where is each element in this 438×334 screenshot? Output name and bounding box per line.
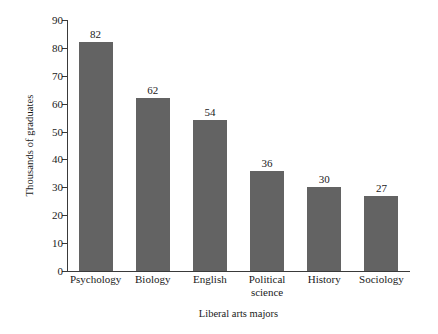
bar-value-label: 27 <box>376 182 387 194</box>
x-category-label: Biology <box>135 273 170 286</box>
y-tick-label: 20 <box>52 210 63 221</box>
bar-value-label: 30 <box>319 173 330 185</box>
bar: 82 <box>79 42 113 271</box>
x-category-label: English <box>193 273 227 286</box>
y-tick-label: 0 <box>58 266 64 277</box>
y-axis-line <box>67 20 68 272</box>
x-category-label: History <box>308 273 341 286</box>
bar-value-label: 62 <box>147 84 158 96</box>
x-axis-line <box>67 271 410 272</box>
y-tick-label: 60 <box>52 98 63 109</box>
plot-area: 0102030405060708090 826254363027 Psychol… <box>67 20 410 271</box>
bar-value-label: 82 <box>90 28 101 40</box>
bar: 62 <box>136 98 170 271</box>
bar: 54 <box>193 120 227 271</box>
x-category-label: Political science <box>249 273 286 298</box>
y-tick-label: 40 <box>52 154 63 165</box>
x-category-label: Psychology <box>70 273 121 286</box>
x-axis-title: Liberal arts majors <box>67 308 410 320</box>
bar-value-label: 36 <box>262 157 273 169</box>
bar-value-label: 54 <box>204 106 215 118</box>
y-tick-label: 10 <box>52 238 63 249</box>
x-category-label: Sociology <box>359 273 404 286</box>
y-tick-label: 30 <box>52 182 63 193</box>
y-tick-label: 50 <box>52 126 63 137</box>
bar: 36 <box>250 171 284 271</box>
y-tick-label: 80 <box>52 42 63 53</box>
bar-chart: Thousands of graduates 01020304050607080… <box>0 0 438 334</box>
y-tick-label: 70 <box>52 70 63 81</box>
y-axis-title: Thousands of graduates <box>22 20 38 271</box>
bar: 27 <box>364 196 398 271</box>
bar: 30 <box>307 187 341 271</box>
y-tick-label: 90 <box>52 15 63 26</box>
